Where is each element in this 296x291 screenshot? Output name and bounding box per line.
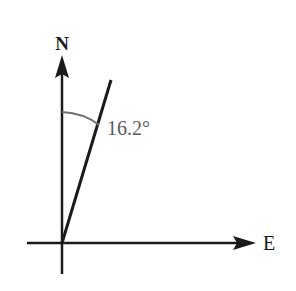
bearing-line <box>62 80 111 243</box>
east-label: E <box>263 232 275 254</box>
north-label: N <box>55 33 69 54</box>
angle-label: 16.2° <box>107 117 150 139</box>
angle-arc <box>62 112 99 125</box>
bearing-diagram: N E 16.2° <box>0 0 296 291</box>
